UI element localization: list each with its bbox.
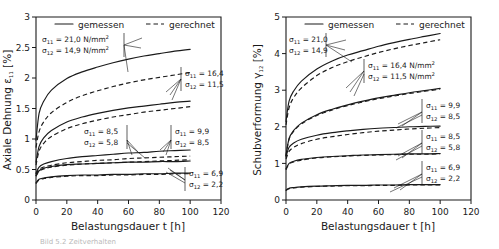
y-tick-label: 1: [274, 159, 280, 169]
y-tick-label: 5: [274, 12, 280, 22]
x-tick-label: 60: [123, 207, 135, 217]
curve-gemessen: [286, 154, 440, 169]
curves-right: [286, 33, 440, 190]
svg-text:σ11 = 16,4: σ11 = 16,4: [185, 69, 224, 79]
curve-gerechnet: [36, 174, 190, 184]
annotation-right-2: σ11 = 9,9 σ12 = 8,5: [396, 99, 460, 128]
curve-gemessen: [286, 88, 440, 155]
curve-gerechnet: [286, 89, 440, 156]
x-tick-label: 20: [61, 207, 73, 217]
x-tick-label: 100: [432, 207, 449, 217]
figure-root: 00.511.522.53020406080100120 Axiale Dehn…: [0, 0, 499, 249]
y-tick-label: 0: [24, 195, 30, 205]
curve-gerechnet: [286, 185, 440, 191]
y-axis-title-left: Axiale Dehnung ε11 [%]: [1, 50, 14, 171]
x-tick-label: 40: [342, 207, 354, 217]
svg-text:σ12 = 2,2: σ12 = 2,2: [189, 180, 223, 190]
svg-text:σ12 = 8,5: σ12 = 8,5: [175, 138, 209, 148]
y-tick-label: 1: [24, 134, 30, 144]
y-tick-label: 0.5: [16, 165, 30, 175]
y-tick-label: 2: [24, 73, 30, 83]
svg-text:σ11 = 16,4 N/mm2: σ11 = 16,4 N/mm2: [368, 60, 435, 71]
legend-right: gemessen gerechnet: [305, 20, 465, 30]
curves-left: [36, 49, 190, 183]
annotation-left-0: σ11 = 21,0 N/mm2 σ12 = 14,9 N/mm2: [42, 33, 142, 72]
x-axis-title-right: Belastungsdauer t [h]: [321, 220, 435, 232]
y-tick-label: 3: [274, 85, 280, 95]
y-tick-label: 2: [274, 122, 280, 132]
x-tick-label: 80: [404, 207, 416, 217]
shear-strain-plot: 012345020406080100120 Schubverformung γ1…: [250, 0, 499, 249]
x-tick-label: 60: [373, 207, 385, 217]
x-tick-label: 120: [462, 207, 479, 217]
x-tick-label: 100: [182, 207, 199, 217]
annotation-left-1: σ11 = 16,4 σ12 = 11,5: [166, 67, 224, 100]
x-tick-label: 40: [92, 207, 104, 217]
y-tick-label: 1.5: [16, 104, 30, 114]
svg-text:σ11 = 21,0 N/mm2: σ11 = 21,0 N/mm2: [42, 34, 109, 45]
legend-measured-label: gemessen: [328, 20, 374, 30]
legend-computed-label: gerechnet: [419, 20, 465, 30]
svg-text:Schubverformung γ12 [%]: Schubverformung γ12 [%]: [251, 44, 264, 176]
y-tick-label: 0: [274, 195, 280, 205]
legend-left: gemessen gerechnet: [55, 20, 215, 30]
svg-text:σ12 = 14,9 N/mm2: σ12 = 14,9 N/mm2: [42, 45, 109, 56]
svg-text:Axiale Dehnung ε11 [%]: Axiale Dehnung ε11 [%]: [1, 50, 14, 171]
chart-panel-axial-strain: 00.511.522.53020406080100120 Axiale Dehn…: [0, 0, 249, 249]
y-tick-label: 4: [274, 49, 280, 59]
svg-text:σ12 = 5,8: σ12 = 5,8: [426, 143, 460, 153]
annotation-right-0: σ11 = 21,0 σ12 = 14,9: [289, 33, 352, 62]
svg-text:σ11 = 9,9: σ11 = 9,9: [175, 127, 209, 137]
svg-text:σ12 = 14,9: σ12 = 14,9: [289, 46, 328, 56]
x-tick-label: 80: [154, 207, 166, 217]
chart-panel-shear-strain: 012345020406080100120 Schubverformung γ1…: [250, 0, 499, 249]
axial-strain-plot: 00.511.522.53020406080100120 Axiale Dehn…: [0, 0, 249, 249]
legend-computed-label: gerechnet: [169, 20, 215, 30]
y-axis-title-right: Schubverformung γ12 [%]: [251, 44, 264, 176]
x-tick-label: 0: [33, 207, 39, 217]
x-tick-label: 20: [311, 207, 323, 217]
svg-text:σ12 = 5,8: σ12 = 5,8: [84, 138, 118, 148]
x-axis-title-left: Belastungsdauer t [h]: [71, 220, 185, 232]
curve-gerechnet: [286, 154, 440, 170]
svg-text:σ11 = 8,5: σ11 = 8,5: [84, 127, 118, 137]
svg-text:σ11 = 21,0: σ11 = 21,0: [289, 35, 328, 45]
y-tick-label: 3: [24, 12, 30, 22]
svg-text:σ12 = 11,5: σ12 = 11,5: [185, 80, 224, 90]
annotation-right-3: σ11 = 8,5 σ12 = 5,8: [396, 130, 460, 160]
svg-text:σ11 = 6,9: σ11 = 6,9: [426, 163, 460, 173]
figure-caption: Bild 5.2 Zeitverhalten: [40, 238, 116, 246]
svg-text:σ11 = 6,9: σ11 = 6,9: [189, 169, 223, 179]
svg-text:σ12 = 2,2: σ12 = 2,2: [426, 174, 460, 184]
svg-text:σ11 = 8,5: σ11 = 8,5: [426, 132, 460, 142]
y-tick-label: 2.5: [16, 43, 30, 53]
x-tick-label: 0: [283, 207, 289, 217]
svg-text:σ11 = 9,9: σ11 = 9,9: [426, 101, 460, 111]
svg-text:σ12 = 8,5: σ12 = 8,5: [426, 112, 460, 122]
x-tick-label: 120: [212, 207, 229, 217]
legend-measured-label: gemessen: [78, 20, 124, 30]
annotation-left-4: σ11 = 6,9 σ12 = 2,2: [166, 167, 223, 191]
svg-text:σ12 = 11,5 N/mm2: σ12 = 11,5 N/mm2: [368, 71, 435, 82]
annotation-right-4: σ11 = 6,9 σ12 = 2,2: [390, 161, 460, 192]
